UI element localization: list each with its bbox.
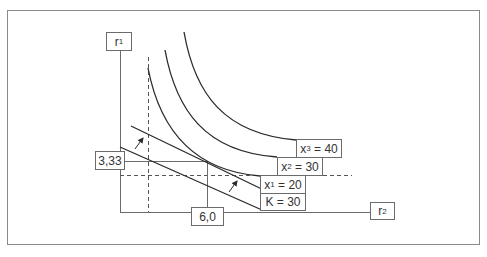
shift-arrow-icon <box>135 138 143 149</box>
shift-arrow-icon <box>229 181 237 192</box>
y-axis-label: r1 <box>106 32 132 51</box>
outer-frame <box>8 11 480 245</box>
x-axis-label-sub: 2 <box>382 207 386 216</box>
isoquant-label-value: = 30 <box>292 160 319 174</box>
isoquant-label-value: = 20 <box>275 178 302 192</box>
x-axis-label: r2 <box>370 202 395 220</box>
isoquant-curve-x3 <box>184 32 296 140</box>
isoquant-label-x2: x2 = 30 <box>277 157 323 176</box>
isoquant-curve-x1 <box>148 68 260 176</box>
r1-optimum-value: 3,33 <box>95 151 125 170</box>
diagram-canvas: r1 r2 3,33 6,0 K = 30 x1 = 20 x2 = 30 x3… <box>0 0 487 257</box>
y-axis-label-sub: 1 <box>119 37 123 46</box>
isoquant-label-x3: x3 = 40 <box>296 139 342 158</box>
isoquant-label-x1: x1 = 20 <box>260 175 306 194</box>
isocost-label: K = 30 <box>260 192 306 211</box>
r2-optimum-value: 6,0 <box>191 207 224 226</box>
isoquant-label-value: = 40 <box>311 142 338 156</box>
